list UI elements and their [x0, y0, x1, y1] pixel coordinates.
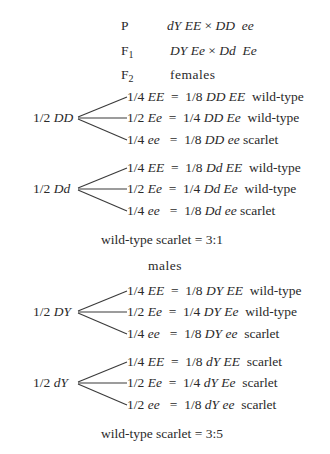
result-geno: dY ee	[205, 397, 235, 412]
parent-genotype-dd-het: 1/2 Dd	[33, 182, 70, 196]
f1-cross-right: Dd Ee	[219, 43, 257, 58]
equals: =	[171, 89, 179, 104]
result-geno: DD EE	[206, 89, 245, 104]
parent-geno: DD	[54, 110, 74, 125]
branch-row: 1/4 ee = 1/8 DD ee scarlet	[127, 133, 278, 147]
result-frac: 1/8	[185, 160, 202, 175]
parent-genotype-dy-recessive: 1/2 dY	[33, 376, 68, 390]
phenotype: wild-type	[250, 283, 302, 298]
phenotype: wild-type	[248, 110, 300, 125]
branch-geno: EE	[148, 160, 165, 175]
branch-geno: EE	[148, 354, 165, 369]
branch-row: 1/2 Ee = 1/4 DD Ee wild-type	[127, 111, 299, 125]
branch-geno: EE	[148, 89, 165, 104]
phenotype: scarlet	[247, 354, 282, 369]
f1-label-sub: 1	[129, 49, 134, 60]
times-symbol: ×	[205, 18, 213, 33]
branch-geno: ee	[148, 326, 160, 341]
branch-geno: Ee	[148, 181, 162, 196]
equals: =	[169, 110, 177, 125]
branch-frac: 1/4	[127, 354, 144, 369]
times-symbol: ×	[208, 43, 216, 58]
equals: =	[170, 132, 178, 147]
result-frac: 1/4	[183, 375, 200, 390]
equals: =	[171, 354, 179, 369]
p-cross-right: DD ee	[216, 18, 254, 33]
f2-label-main: F	[121, 67, 129, 82]
phenotype: wild-type	[245, 304, 297, 319]
result-geno: DY Ee	[204, 304, 239, 319]
branch-row: 1/4 EE = 1/8 DD EE wild-type	[127, 90, 304, 104]
branch-frac: 1/4	[127, 132, 144, 147]
phenotype: wild-type	[252, 89, 304, 104]
parent-genotype-dd: 1/2 DD	[33, 111, 73, 125]
phenotype: wild-type	[245, 181, 297, 196]
result-geno: DY EE	[206, 283, 243, 298]
f2-label-sub: 2	[129, 73, 134, 84]
parent-geno: Dd	[54, 181, 71, 196]
branch-geno: ee	[148, 397, 160, 412]
result-geno: dY EE	[206, 354, 240, 369]
result-frac: 1/8	[184, 203, 201, 218]
branch-row: 1/2 Ee = 1/4 dY Ee scarlet	[127, 376, 278, 390]
result-frac: 1/8	[184, 397, 201, 412]
branch-frac: 1/2	[127, 181, 144, 196]
result-geno: DY ee	[205, 326, 238, 341]
branch-row: 1/4 EE = 1/8 dY EE scarlet	[127, 355, 282, 369]
result-geno: Dd ee	[205, 203, 237, 218]
phenotype: scarlet	[240, 203, 275, 218]
result-frac: 1/8	[185, 354, 202, 369]
branch-frac: 1/2	[127, 110, 144, 125]
f1-label: F1	[121, 44, 134, 60]
equals: =	[170, 397, 178, 412]
phenotype: scarlet	[244, 326, 279, 341]
branch-row: 1/4 ee = 1/8 Dd ee scarlet	[127, 204, 275, 218]
branch-frac: 1/4	[127, 283, 144, 298]
f1-cross: DY Ee × Dd Ee	[170, 44, 257, 58]
branch-frac: 1/4	[127, 89, 144, 104]
result-frac: 1/8	[184, 132, 201, 147]
result-frac: 1/4	[183, 181, 200, 196]
result-frac: 1/8	[185, 89, 202, 104]
branch-frac: 1/4	[127, 160, 144, 175]
parent-fraction: 1/2	[33, 375, 50, 390]
p-label: P	[121, 19, 129, 33]
result-frac: 1/8	[185, 283, 202, 298]
result-geno: dY Ee	[204, 375, 236, 390]
equals: =	[170, 326, 178, 341]
p-cross-left: dY EE	[167, 18, 201, 33]
result-frac: 1/4	[183, 110, 200, 125]
f1-cross-left: DY Ee	[170, 43, 205, 58]
branch-geno: Ee	[148, 110, 162, 125]
result-frac: 1/8	[184, 326, 201, 341]
equals: =	[171, 160, 179, 175]
f1-label-main: F	[121, 43, 129, 58]
branch-geno: Ee	[148, 304, 162, 319]
phenotype: scarlet	[242, 375, 277, 390]
result-geno: Dd Ee	[204, 181, 238, 196]
branch-row: 1/4 EE = 1/8 Dd EE wild-type	[127, 161, 301, 175]
f2-label: F2	[121, 68, 134, 84]
female-ratio: wild-type scarlet = 3:1	[101, 233, 223, 247]
branch-geno: ee	[148, 203, 160, 218]
p-cross: dY EE × DD ee	[167, 19, 254, 33]
parent-geno: DY	[54, 304, 71, 319]
branch-row: 1/2 ee = 1/8 dY ee scarlet	[127, 398, 276, 412]
branch-frac: 1/4	[127, 326, 144, 341]
result-geno: DD ee	[205, 132, 240, 147]
branch-frac: 1/2	[127, 304, 144, 319]
equals: =	[171, 283, 179, 298]
branch-row: 1/4 ee = 1/8 DY ee scarlet	[127, 327, 279, 341]
phenotype: scarlet	[241, 397, 276, 412]
branch-row: 1/2 Ee = 1/4 DY Ee wild-type	[127, 305, 297, 319]
branch-geno: EE	[148, 283, 165, 298]
equals: =	[169, 181, 177, 196]
branch-geno: ee	[148, 132, 160, 147]
males-heading: males	[148, 259, 182, 273]
phenotype: scarlet	[243, 132, 278, 147]
females-heading: females	[170, 68, 215, 82]
parent-geno: dY	[54, 375, 68, 390]
branch-frac: 1/4	[127, 203, 144, 218]
phenotype: wild-type	[249, 160, 301, 175]
branch-geno: Ee	[148, 375, 162, 390]
